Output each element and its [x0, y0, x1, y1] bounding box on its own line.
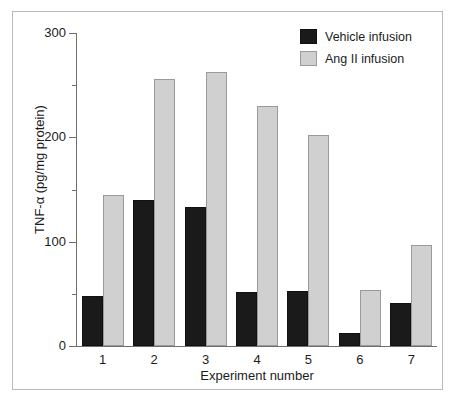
bar-vehicle-exp-2 [133, 200, 154, 346]
x-axis-tick-label: 1 [83, 352, 123, 367]
y-axis-major-tick [69, 33, 77, 34]
legend-item: Vehicle infusion [300, 27, 436, 46]
bar-vehicle-exp-7 [390, 303, 411, 346]
x-axis-title: Experiment number [77, 368, 437, 383]
bar-angii-exp-2 [154, 79, 175, 346]
x-axis-tick-label: 2 [134, 352, 174, 367]
bar-angii-exp-6 [360, 290, 381, 346]
y-axis-major-tick [69, 346, 77, 347]
legend-swatch-icon [300, 29, 317, 44]
x-axis-tick-label: 5 [288, 352, 328, 367]
y-axis-title: TNF-α (pg/mg protein) [32, 70, 47, 270]
plot-area [77, 33, 437, 346]
y-axis-tick-label: 0 [22, 339, 66, 352]
y-axis-major-tick [69, 137, 77, 138]
bar-angii-exp-7 [411, 245, 432, 346]
bar-vehicle-exp-1 [82, 296, 103, 346]
x-axis-tick-label: 6 [340, 352, 380, 367]
x-axis-tick-label: 7 [391, 352, 431, 367]
bar-angii-exp-1 [103, 195, 124, 346]
legend-swatch-icon [300, 51, 317, 66]
bar-vehicle-exp-6 [339, 333, 360, 346]
bar-vehicle-exp-5 [287, 291, 308, 346]
legend-item-label: Ang II infusion [325, 52, 404, 66]
y-axis-tick-label: 300 [22, 26, 66, 39]
bar-angii-exp-5 [308, 135, 329, 346]
x-axis-tick-label: 3 [186, 352, 226, 367]
chart-legend: Vehicle infusionAng II infusion [300, 27, 436, 71]
x-axis-tick-label: 4 [237, 352, 277, 367]
legend-item-label: Vehicle infusion [325, 30, 412, 44]
figure-container: 0100200300 TNF-α (pg/mg protein) 1234567… [0, 0, 457, 401]
bar-angii-exp-4 [257, 106, 278, 346]
bar-angii-exp-3 [206, 72, 227, 346]
legend-item: Ang II infusion [300, 49, 436, 68]
x-axis-line [76, 346, 437, 347]
y-axis-major-tick [69, 242, 77, 243]
bar-vehicle-exp-3 [185, 207, 206, 346]
bar-vehicle-exp-4 [236, 292, 257, 346]
